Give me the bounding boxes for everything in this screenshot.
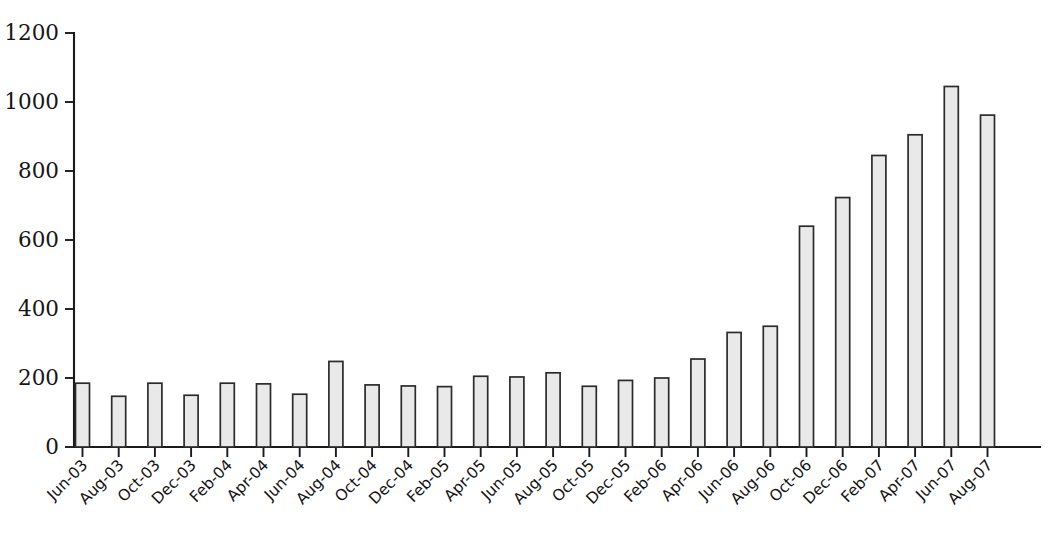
bar[interactable]: Oct-03: 185 bbox=[148, 383, 162, 447]
y-tick-label: 1000 bbox=[4, 89, 59, 114]
bar[interactable]: Aug-04: 248 bbox=[329, 361, 343, 447]
bar[interactable]: Apr-04: 183 bbox=[257, 384, 271, 447]
bar-series: Jun-03: 185Aug-03: 147Oct-03: 185Dec-03:… bbox=[76, 86, 995, 447]
bar[interactable]: Aug-05: 215 bbox=[546, 373, 560, 447]
bar[interactable]: Feb-05: 175 bbox=[438, 387, 452, 447]
bar[interactable]: Apr-06: 255 bbox=[691, 359, 705, 447]
bar[interactable]: Aug-06: 350 bbox=[763, 326, 777, 447]
x-tick-label: Apr-04 bbox=[223, 456, 272, 505]
y-axis: 020040060080010001200 bbox=[4, 20, 74, 459]
bar[interactable]: Aug-03: 147 bbox=[112, 396, 126, 447]
bar-chart: 020040060080010001200 Jun-03: 185Aug-03:… bbox=[0, 0, 1055, 540]
y-tick-label: 800 bbox=[18, 158, 59, 183]
bar[interactable]: Feb-04: 185 bbox=[220, 383, 234, 447]
x-tick-labels: Jun-03Aug-03Oct-03Dec-03Feb-04Apr-04Jun-… bbox=[43, 456, 996, 508]
bar[interactable]: Jun-07: 1045 bbox=[944, 86, 958, 447]
x-tick-label: Apr-06 bbox=[658, 456, 707, 505]
y-tick-label: 400 bbox=[18, 296, 59, 321]
bar[interactable]: Oct-04: 180 bbox=[365, 385, 379, 447]
bar[interactable]: Feb-06: 200 bbox=[655, 378, 669, 447]
y-tick-label: 0 bbox=[45, 434, 59, 459]
y-tick-label: 1200 bbox=[4, 20, 59, 45]
bar[interactable]: Jun-06: 332 bbox=[727, 332, 741, 447]
bar[interactable]: Jun-05: 203 bbox=[510, 377, 524, 447]
bar[interactable]: Apr-07: 905 bbox=[908, 135, 922, 447]
bar[interactable]: Oct-05: 176 bbox=[582, 386, 596, 447]
bar[interactable]: Dec-04: 177 bbox=[401, 386, 415, 447]
x-tick-label: Apr-05 bbox=[441, 456, 490, 505]
bar[interactable]: Feb-07: 845 bbox=[872, 155, 886, 447]
y-tick-label: 600 bbox=[18, 227, 59, 252]
bar[interactable]: Oct-06: 640 bbox=[800, 226, 814, 447]
y-tick-label: 200 bbox=[18, 365, 59, 390]
bar[interactable]: Jun-03: 185 bbox=[76, 383, 90, 447]
bar[interactable]: Jun-04: 153 bbox=[293, 394, 307, 447]
bar[interactable]: Apr-05: 205 bbox=[474, 376, 488, 447]
bar[interactable]: Dec-06: 723 bbox=[836, 198, 850, 447]
x-axis bbox=[74, 447, 1040, 457]
bar[interactable]: Dec-05: 193 bbox=[619, 380, 633, 447]
bar[interactable]: Aug-07: 962 bbox=[981, 115, 995, 447]
x-tick-label: Apr-07 bbox=[875, 456, 924, 505]
bar[interactable]: Dec-03: 150 bbox=[184, 395, 198, 447]
chart-container: 020040060080010001200 Jun-03: 185Aug-03:… bbox=[0, 0, 1055, 540]
